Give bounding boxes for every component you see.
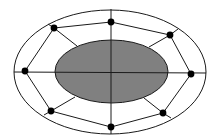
node-right: [188, 71, 195, 78]
node-bottom: [108, 124, 115, 131]
node-bottom-right: [160, 110, 167, 117]
node-left: [22, 68, 29, 75]
node-top: [108, 19, 115, 26]
ring-network-diagram: [0, 0, 216, 140]
node-bottom-left: [48, 108, 55, 115]
node-top-right: [167, 32, 174, 39]
node-top-left: [51, 25, 58, 32]
